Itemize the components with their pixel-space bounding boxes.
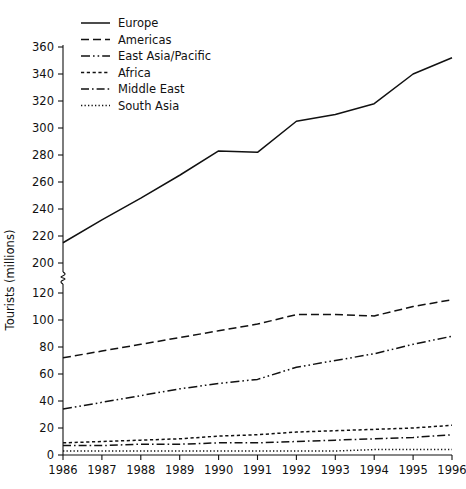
x-tick-label: 1988 (126, 463, 155, 477)
y-axis-title: Tourists (millions) (3, 230, 17, 332)
chart-canvas: 0204060801001202002202402602803003203403… (0, 0, 466, 489)
x-tick-label: 1994 (360, 463, 389, 477)
y-tick-label: 360 (32, 40, 54, 54)
x-tick-label: 1991 (243, 463, 272, 477)
x-axis-tick-labels: 1986198719881989199019911992199319941995… (48, 463, 466, 477)
y-tick-label: 120 (32, 286, 54, 300)
y-tick-label: 220 (32, 229, 54, 243)
y-tick-label: 300 (32, 121, 54, 135)
legend-label-east-asia-pacific: East Asia/Pacific (118, 49, 211, 63)
y-tick-label: 280 (32, 148, 54, 162)
y-tick-label: 100 (32, 313, 54, 327)
y-tick-label: 200 (32, 256, 54, 270)
y-tick-label: 320 (32, 94, 54, 108)
chart-background (0, 0, 466, 489)
y-tick-label: 40 (39, 394, 54, 408)
x-tick-label: 1990 (204, 463, 233, 477)
x-tick-label: 1993 (321, 463, 350, 477)
x-tick-label: 1992 (282, 463, 311, 477)
legend-label-south-asia: South Asia (118, 99, 179, 113)
y-tick-label: 20 (39, 421, 54, 435)
y-tick-label: 80 (39, 340, 54, 354)
x-tick-label: 1986 (48, 463, 77, 477)
y-tick-label: 60 (39, 367, 54, 381)
legend-label-africa: Africa (118, 66, 151, 80)
x-tick-label: 1996 (437, 463, 466, 477)
x-tick-label: 1989 (165, 463, 194, 477)
legend-label-middle-east: Middle East (118, 82, 185, 96)
legend-label-europe: Europe (118, 16, 158, 30)
legend-label-americas: Americas (118, 33, 171, 47)
y-tick-label: 0 (47, 448, 54, 462)
x-tick-label: 1995 (398, 463, 427, 477)
tourism-line-chart: 0204060801001202002202402602803003203403… (0, 0, 466, 489)
y-tick-label: 240 (32, 202, 54, 216)
y-tick-label: 260 (32, 175, 54, 189)
y-tick-label: 340 (32, 67, 54, 81)
x-tick-label: 1987 (87, 463, 116, 477)
